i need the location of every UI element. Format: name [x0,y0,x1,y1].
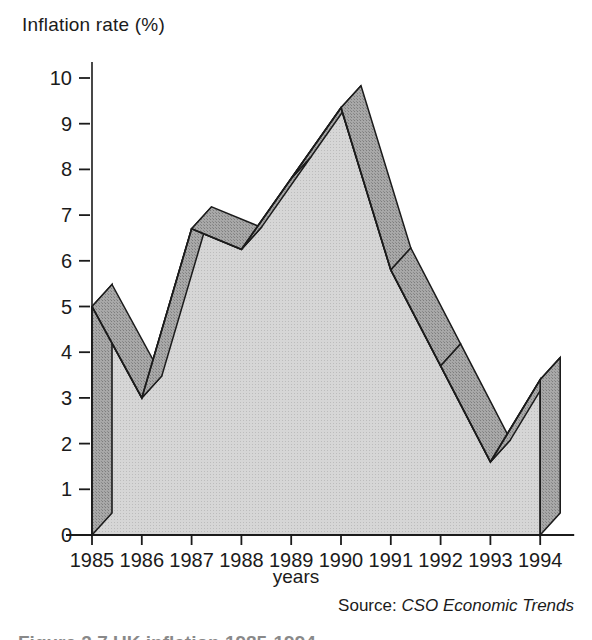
svg-text:6: 6 [61,250,72,272]
source-publication: CSO Economic Trends [401,596,574,615]
svg-text:0: 0 [61,524,72,546]
svg-text:1: 1 [61,478,72,500]
inflation-chart-figure: Inflation rate (%) 012345678910198519861… [0,0,592,640]
chart-plot-area: 0123456789101985198619871988198919901991… [0,0,592,640]
x-axis-title: years [0,566,592,588]
source-note: Source: CSO Economic Trends [338,596,574,616]
svg-text:10: 10 [50,67,72,89]
source-label: Source: [338,596,397,615]
svg-text:4: 4 [61,341,72,363]
figure-caption: Figure 2.7 UK inflation 1985-1994 [18,632,438,640]
svg-text:8: 8 [61,158,72,180]
svg-text:5: 5 [61,296,72,318]
svg-text:9: 9 [61,113,72,135]
svg-text:2: 2 [61,433,72,455]
svg-text:7: 7 [61,204,72,226]
svg-text:3: 3 [61,387,72,409]
y-axis-title: Inflation rate (%) [22,14,165,36]
